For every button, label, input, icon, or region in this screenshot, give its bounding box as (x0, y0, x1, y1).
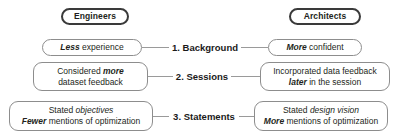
connector-row1-right (237, 47, 268, 48)
row1-left-box: Less experience (42, 39, 142, 56)
row1-left-text: Less experience (60, 42, 123, 53)
architects-header-label: Architects (304, 11, 347, 22)
row1-right-text: More confident (286, 42, 343, 53)
row2-left-box: Considered more dataset feedback (33, 62, 148, 91)
row3-right-line2-rest: mentions of optimization (284, 116, 378, 126)
stage-label-1: 1. Background (169, 42, 241, 53)
row3-right-box: Stated design vision More mentions of op… (254, 101, 388, 131)
row3-left-emphasis-2: Fewer (22, 116, 47, 126)
row1-left-emphasis: Less (60, 42, 79, 52)
connector-row2-left (148, 76, 173, 77)
row1-right-box: More confident (268, 39, 362, 56)
column-header-engineers: Engineers (61, 8, 129, 25)
row3-left-line1: Stated objectives (49, 105, 114, 116)
column-header-architects: Architects (289, 8, 361, 25)
row3-right-emphasis-1: design vision (310, 105, 359, 115)
row2-right-line1: Incorporated data feedback (273, 66, 377, 77)
row3-right-line2: More mentions of optimization (264, 116, 378, 127)
row2-left-line1: Considered more (57, 66, 124, 77)
stage-label-3: 3. Statements (169, 111, 239, 122)
row2-left-line2: dataset feedback (58, 77, 123, 88)
connector-row2-right (227, 76, 260, 77)
engineers-header-label: Engineers (74, 11, 116, 22)
row3-left-emphasis-1: objectives (76, 105, 114, 115)
connector-row3-left (153, 116, 169, 117)
row3-right-line1: Stated design vision (283, 105, 359, 116)
row2-left-emphasis: more (103, 66, 124, 76)
row2-right-line2: later in the session (289, 77, 361, 88)
row1-left-rest: experience (80, 42, 124, 52)
row1-right-emphasis: More (286, 42, 306, 52)
stage-label-2: 2. Sessions (173, 71, 231, 82)
connector-row1-left (142, 47, 169, 48)
row3-left-line1-pre: Stated (49, 105, 76, 115)
row3-right-line1-pre: Stated (283, 105, 310, 115)
row2-right-line2-rest: in the session (307, 77, 361, 87)
row3-left-line2: Fewer mentions of optimization (22, 116, 141, 127)
row2-left-line1-pre: Considered (57, 66, 103, 76)
row2-right-emphasis: later (289, 77, 307, 87)
row3-left-line2-rest: mentions of optimization (46, 116, 140, 126)
row1-right-rest: confident (307, 42, 344, 52)
row3-right-emphasis-2: More (264, 116, 284, 126)
row2-right-box: Incorporated data feedback later in the … (260, 62, 390, 91)
row3-left-box: Stated objectives Fewer mentions of opti… (9, 101, 153, 131)
comparison-diagram: Engineers Architects Less experience 1. … (0, 0, 397, 139)
